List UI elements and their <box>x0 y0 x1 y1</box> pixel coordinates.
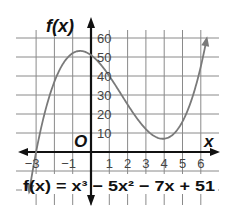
y-tick-label: 30 <box>97 88 111 103</box>
x-tick-label: 3 <box>142 156 149 171</box>
x-tick-label: −3 <box>25 156 40 171</box>
x-tick-label: −1 <box>61 156 76 171</box>
x-tick-label: 2 <box>124 156 131 171</box>
tick-labels: −3−1123456102030405060 <box>25 31 205 171</box>
x-tick-label: 1 <box>106 156 113 171</box>
function-equation: f(x) = x³ − 5x² − 7x + 51 <box>23 177 215 194</box>
y-tick-label: 40 <box>97 69 111 84</box>
function-graph: −3−1123456102030405060 f(x) x O f(x) = x… <box>0 0 236 219</box>
y-tick-label: 50 <box>97 50 111 65</box>
y-axis-up-arrow-icon <box>87 17 95 28</box>
y-axis-label: f(x) <box>46 16 74 36</box>
x-tick-label: 6 <box>197 156 204 171</box>
y-tick-label: 60 <box>97 31 111 46</box>
x-axis-label: x <box>203 132 215 151</box>
y-tick-label: 10 <box>97 126 111 141</box>
x-axis-left-arrow-icon <box>18 148 28 156</box>
y-axis-down-arrow-icon <box>87 195 95 206</box>
x-tick-label: 4 <box>161 156 168 171</box>
origin-label: O <box>74 132 87 151</box>
y-tick-label: 20 <box>97 107 111 122</box>
x-tick-label: 5 <box>179 156 186 171</box>
